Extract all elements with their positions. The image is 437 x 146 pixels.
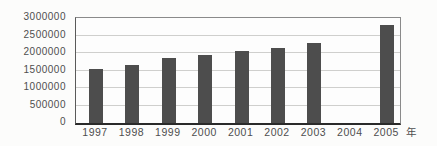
x-tick-label: 2003 — [295, 125, 331, 139]
bar-1997 — [89, 69, 103, 123]
y-axis: 3000000250000020000001500000100000050000… — [0, 17, 70, 122]
y-tick-label: 3000000 — [0, 11, 66, 23]
x-tick-label: 1998 — [113, 125, 149, 139]
gridline — [76, 35, 400, 36]
y-tick-label: 1000000 — [0, 81, 66, 93]
bar-chart: 3000000250000020000001500000100000050000… — [0, 0, 437, 146]
x-axis-unit-label: 年 — [406, 125, 416, 139]
y-tick-label: 1500000 — [0, 64, 66, 76]
bar-2001 — [235, 51, 249, 123]
bar-2000 — [198, 55, 212, 123]
bar-1998 — [125, 65, 139, 123]
y-tick-label: 500000 — [0, 99, 66, 111]
x-tick-label: 2000 — [186, 125, 222, 139]
x-axis: 年 199719981999200020012002200320042005 — [0, 125, 437, 141]
x-tick-label: 1997 — [77, 125, 113, 139]
bar-2002 — [271, 48, 285, 123]
plot-area — [75, 17, 401, 125]
x-tick-label: 2005 — [368, 125, 404, 139]
bar-1999 — [162, 58, 176, 123]
y-tick-label: 2500000 — [0, 29, 66, 41]
bar-2003 — [307, 43, 321, 124]
x-tick-label: 2001 — [223, 125, 259, 139]
bar-2005 — [380, 25, 394, 123]
y-tick-label: 2000000 — [0, 46, 66, 58]
x-tick-label: 2002 — [259, 125, 295, 139]
x-tick-label: 2004 — [332, 125, 368, 139]
x-tick-label: 1999 — [150, 125, 186, 139]
